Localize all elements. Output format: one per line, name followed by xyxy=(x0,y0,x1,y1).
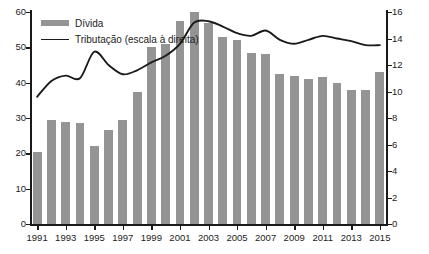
y-axis-right-tickmark xyxy=(388,39,392,40)
y-axis-right-tickmark xyxy=(388,224,392,225)
y-axis-right-tickmark xyxy=(388,171,392,172)
y-axis-left-tick-label: 20 xyxy=(0,148,26,158)
x-axis-tick-label: 2001 xyxy=(169,232,190,243)
x-axis-tick-label: 2005 xyxy=(226,232,247,243)
y-axis-right-tick-label: 14 xyxy=(392,34,422,44)
y-axis-left-tick-label: 30 xyxy=(0,113,26,123)
y-axis-right-tick-label: 10 xyxy=(392,87,422,97)
y-axis-right-tickmark xyxy=(388,145,392,146)
x-axis-tick-label: 2013 xyxy=(341,232,362,243)
x-axis-tick-label: 2007 xyxy=(255,232,276,243)
y-axis-left-tick-label: 0 xyxy=(0,219,26,229)
x-axis-tick-label: 1999 xyxy=(141,232,162,243)
x-axis-tickmark xyxy=(123,226,124,230)
legend-label-divida: Dívida xyxy=(75,18,103,29)
x-axis-tick-label: 1997 xyxy=(112,232,133,243)
y-axis-left-tickmark xyxy=(26,224,30,225)
y-axis-left-tick-label: 50 xyxy=(0,42,26,52)
y-axis-right-tick-label: 2 xyxy=(392,193,422,203)
x-axis-tick-label: 2009 xyxy=(284,232,305,243)
y-axis-right-tickmark xyxy=(388,65,392,66)
y-axis-left-tick-label: 60 xyxy=(0,7,26,17)
x-axis-tick-label: 2015 xyxy=(369,232,390,243)
x-axis-tickmark xyxy=(237,226,238,230)
y-axis-right-tick-label: 0 xyxy=(392,219,422,229)
x-axis-tickmark xyxy=(37,226,38,230)
bar-swatch-icon xyxy=(41,20,69,26)
x-axis-tickmark xyxy=(266,226,267,230)
x-axis-tickmark xyxy=(94,226,95,230)
x-axis-tickmark xyxy=(209,226,210,230)
x-axis-tick-label: 1995 xyxy=(84,232,105,243)
x-axis-tickmark xyxy=(151,226,152,230)
x-axis-tickmark xyxy=(66,226,67,230)
x-axis-tickmark xyxy=(351,226,352,230)
x-axis-tickmark xyxy=(380,226,381,230)
chart-container: 0102030405060 0246810121416 199119931995… xyxy=(0,0,429,254)
x-axis-tickmark xyxy=(180,226,181,230)
x-axis-tick-label: 1993 xyxy=(55,232,76,243)
line-swatch-icon xyxy=(41,39,69,40)
x-axis-tickmark xyxy=(294,226,295,230)
x-axis-tickmark xyxy=(323,226,324,230)
y-axis-left-tick-label: 40 xyxy=(0,78,26,88)
y-axis-left-tick-label: 10 xyxy=(0,184,26,194)
x-axis-tick-label: 2003 xyxy=(198,232,219,243)
x-axis-tick-label: 2011 xyxy=(313,232,333,243)
y-axis-right-tickmark xyxy=(388,12,392,13)
y-axis-right-tick-label: 12 xyxy=(392,60,422,70)
legend-label-tributacao: Tributação (escala à direita) xyxy=(75,34,199,45)
legend-item-tributacao: Tributação (escala à direita) xyxy=(41,32,199,46)
x-axis-tick-label: 1991 xyxy=(27,232,48,243)
y-axis-right-tick-label: 16 xyxy=(392,7,422,17)
y-axis-right-tick-label: 6 xyxy=(392,140,422,150)
legend-item-divida: Dívida xyxy=(41,16,199,30)
y-axis-right-tick-label: 8 xyxy=(392,113,422,123)
y-axis-right-tickmark xyxy=(388,92,392,93)
y-axis-right-tick-label: 4 xyxy=(392,166,422,176)
y-axis-right-tickmark xyxy=(388,118,392,119)
chart-legend: Dívida Tributação (escala à direita) xyxy=(41,16,199,48)
y-axis-right-tickmark xyxy=(388,198,392,199)
